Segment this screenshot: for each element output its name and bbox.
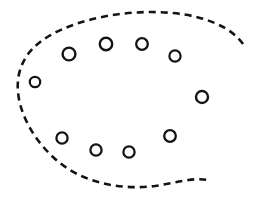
canvas-background <box>0 0 257 200</box>
diagram-svg <box>0 0 257 200</box>
figure-canvas <box>0 0 257 200</box>
